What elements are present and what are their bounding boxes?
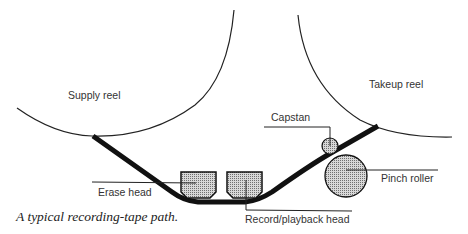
figure-caption: A typical recording-tape path.	[16, 209, 178, 225]
supply-reel-outline	[17, 10, 234, 136]
record-playback-head-label: Record/playback head	[245, 213, 349, 225]
erase-head-label: Erase head	[98, 186, 152, 198]
record-playback-head	[227, 172, 262, 198]
pinch-roller-label: Pinch roller	[381, 172, 434, 184]
tape-path-diagram	[0, 0, 468, 234]
takeup-reel-outline	[298, 15, 452, 137]
capstan-label: Capstan	[271, 111, 310, 123]
capstan-leader	[264, 127, 330, 146]
takeup-reel-label: Takeup reel	[369, 78, 423, 90]
pinch-roller	[325, 155, 367, 197]
erase-head	[181, 172, 216, 198]
supply-reel-label: Supply reel	[68, 89, 121, 101]
